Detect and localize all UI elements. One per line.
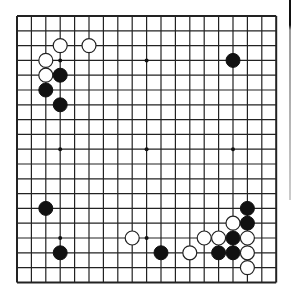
white-stone[interactable] [240,231,254,245]
star-point [58,147,62,151]
black-stone[interactable] [212,246,226,260]
black-stone[interactable] [53,98,67,112]
star-point [58,236,62,240]
black-stone[interactable] [226,53,240,67]
white-stone[interactable] [197,231,211,245]
white-stone[interactable] [240,261,254,275]
black-stone[interactable] [240,201,254,215]
star-point [231,147,235,151]
black-stone[interactable] [39,201,53,215]
white-stone[interactable] [240,246,254,260]
white-stone[interactable] [39,68,53,82]
black-stone[interactable] [226,246,240,260]
star-point [145,58,149,62]
go-board[interactable] [0,0,291,303]
black-stone[interactable] [226,231,240,245]
go-board-grid[interactable] [0,0,291,303]
white-stone[interactable] [39,53,53,67]
black-stone[interactable] [154,246,168,260]
star-point [58,58,62,62]
black-stone[interactable] [39,83,53,97]
white-stone[interactable] [125,231,139,245]
black-stone[interactable] [53,68,67,82]
star-point [145,236,149,240]
white-stone[interactable] [183,246,197,260]
white-stone[interactable] [226,216,240,230]
star-point [145,147,149,151]
black-stone[interactable] [53,246,67,260]
white-stone[interactable] [53,39,67,53]
white-stone[interactable] [212,231,226,245]
page-edge-bar [289,0,291,200]
black-stone[interactable] [240,216,254,230]
white-stone[interactable] [82,39,96,53]
